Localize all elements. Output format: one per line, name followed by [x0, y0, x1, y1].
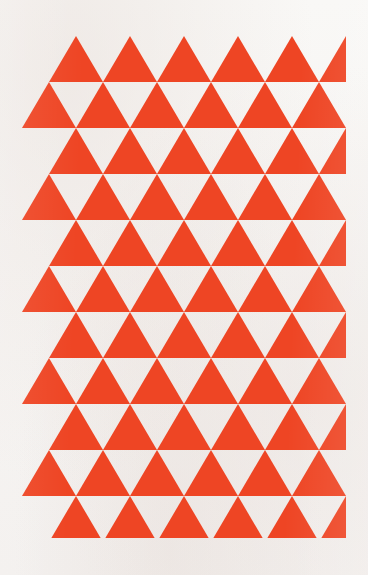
triangle-tile [103, 128, 157, 174]
triangle-tile [184, 450, 238, 496]
triangle-tile [103, 220, 157, 266]
triangle-tile [130, 82, 184, 128]
triangle-tile [76, 358, 130, 404]
triangle-tile [103, 312, 157, 358]
triangle-tile [238, 174, 292, 220]
triangle-tile [265, 36, 319, 82]
triangle-tile [184, 266, 238, 312]
triangle-tile [76, 450, 130, 496]
triangle-tile [265, 496, 319, 538]
triangle-tile [211, 496, 265, 538]
triangle-tessellation-pattern [22, 36, 346, 538]
triangle-tile [211, 36, 265, 82]
triangle-tile [319, 312, 346, 358]
triangle-tile [157, 220, 211, 266]
triangle-tile [184, 174, 238, 220]
triangle-tile [130, 450, 184, 496]
triangle-tile [238, 266, 292, 312]
triangle-tile [22, 82, 76, 128]
triangle-tile [49, 312, 103, 358]
triangle-tile [49, 36, 103, 82]
triangle-tile [22, 174, 76, 220]
triangle-tile [292, 358, 346, 404]
triangle-tile [157, 404, 211, 450]
triangle-tile [211, 404, 265, 450]
triangle-tile [157, 312, 211, 358]
triangle-tile [319, 128, 346, 174]
triangle-tile [211, 128, 265, 174]
triangle-tile [211, 312, 265, 358]
triangle-tile [265, 312, 319, 358]
triangle-tile [238, 358, 292, 404]
triangle-tile [130, 174, 184, 220]
triangle-tile [22, 266, 76, 312]
triangle-tile [265, 404, 319, 450]
triangle-tile [76, 174, 130, 220]
triangle-tile [76, 266, 130, 312]
triangle-tile [292, 266, 346, 312]
triangle-tile [184, 82, 238, 128]
triangle-tile [292, 174, 346, 220]
triangle-tile [157, 128, 211, 174]
triangle-tile [157, 36, 211, 82]
triangle-tile [292, 82, 346, 128]
triangle-tile [211, 220, 265, 266]
triangle-tile [319, 220, 346, 266]
triangle-tile [49, 496, 103, 538]
triangle-tile [103, 36, 157, 82]
triangle-tile [49, 220, 103, 266]
artwork-canvas [0, 0, 368, 575]
triangle-tile [292, 450, 346, 496]
triangle-tile [238, 82, 292, 128]
triangle-tile [130, 266, 184, 312]
triangle-tile [130, 358, 184, 404]
triangle-tile [157, 496, 211, 538]
triangle-tile [238, 450, 292, 496]
triangle-tile [22, 358, 76, 404]
triangle-tile [319, 404, 346, 450]
triangle-tile [184, 358, 238, 404]
triangle-tile [49, 404, 103, 450]
triangle-tile [265, 128, 319, 174]
triangle-tile [103, 496, 157, 538]
triangle-tile [103, 404, 157, 450]
triangle-tile [319, 36, 346, 82]
triangle-tile [76, 82, 130, 128]
triangle-tile [22, 450, 76, 496]
triangle-tile [265, 220, 319, 266]
triangle-tile [319, 496, 346, 538]
triangle-tile [49, 128, 103, 174]
